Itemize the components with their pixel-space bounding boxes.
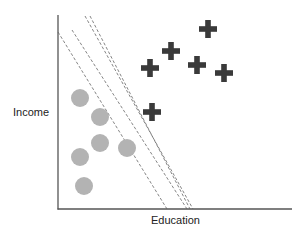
plus-icon xyxy=(141,59,159,77)
plus-class-points xyxy=(141,20,233,121)
circle-class-points xyxy=(71,89,136,195)
plus-icon xyxy=(143,103,161,121)
y-axis-label: Income xyxy=(13,106,49,118)
x-axis-label: Education xyxy=(151,214,200,226)
circle-point xyxy=(91,108,109,126)
plus-icon xyxy=(188,56,206,74)
circle-point xyxy=(91,134,109,152)
circle-point xyxy=(118,139,136,157)
circle-point xyxy=(71,148,89,166)
circle-point xyxy=(75,177,93,195)
plus-icon xyxy=(199,20,217,38)
circle-point xyxy=(71,89,89,107)
plus-icon xyxy=(215,64,233,82)
plus-icon xyxy=(162,42,180,60)
